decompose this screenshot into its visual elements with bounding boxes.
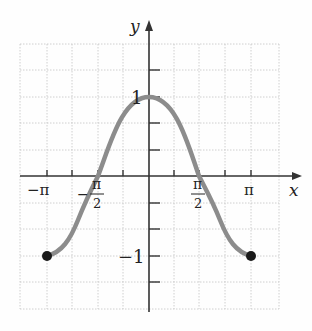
y-axis-arrow-icon <box>145 20 153 31</box>
x-tick-label-neg-half-pi-den: 2 <box>93 196 101 211</box>
x-tick-label-half-pi-num: π <box>193 176 202 192</box>
x-tick-label-neg-half-pi-sign: − <box>77 186 89 202</box>
plot-area: y x 1 −1 −π − π 2 π 2 π <box>0 0 312 331</box>
x-tick-label-half-pi-den: 2 <box>194 196 202 211</box>
chart: y x 1 −1 −π − π 2 π 2 π <box>0 0 312 331</box>
y-tick-label-neg1: −1 <box>118 246 145 267</box>
x-tick-label-pi: π <box>244 181 254 199</box>
y-tick-label-1: 1 <box>131 87 142 108</box>
x-axis-arrow-icon <box>292 172 302 180</box>
x-tick-label-neg-pi: −π <box>27 181 50 199</box>
y-axis-label: y <box>129 16 140 36</box>
x-axis-label: x <box>289 180 299 200</box>
endpoint-right <box>246 251 256 261</box>
endpoint-left <box>42 251 52 261</box>
x-tick-label-neg-half-pi-num: π <box>92 176 101 192</box>
